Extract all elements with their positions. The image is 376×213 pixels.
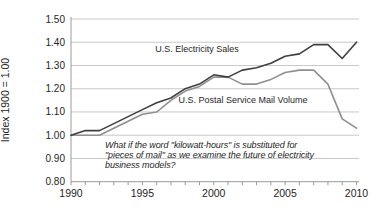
y-tick-label-1.20: 1.20 bbox=[46, 83, 66, 94]
electricity-vs-mail-line-chart: 1.501.401.301.201.101.000.900.8019901995… bbox=[0, 0, 376, 213]
y-tick-label-0.90: 0.90 bbox=[46, 153, 66, 164]
x-tick-label-2005: 2005 bbox=[273, 187, 297, 199]
y-tick-label-1.00: 1.00 bbox=[46, 130, 66, 141]
annotation-line-3: business models? bbox=[105, 160, 176, 170]
line-chart-container: 1.501.401.301.201.101.000.900.8019901995… bbox=[0, 0, 376, 213]
x-tick-label-1995: 1995 bbox=[131, 187, 155, 199]
y-tick-label-1.30: 1.30 bbox=[46, 60, 66, 71]
annotation-line-1: What if the word "kilowatt-hours" is sub… bbox=[105, 140, 298, 150]
x-tick-label-1990: 1990 bbox=[59, 187, 83, 199]
y-axis-title: Index 1900 = 1.00 bbox=[0, 58, 11, 143]
y-tick-label-1.50: 1.50 bbox=[46, 14, 66, 25]
annotation-line-2: "pieces of mail" as we examine the futur… bbox=[105, 150, 314, 160]
x-tick-label-2000: 2000 bbox=[202, 187, 226, 199]
mail-volume-label: U.S. Postal Service Mail Volume bbox=[178, 95, 307, 105]
x-tick-label-2010: 2010 bbox=[345, 187, 369, 199]
electricity-sales-label: U.S. Electricity Sales bbox=[155, 44, 239, 54]
y-tick-label-1.10: 1.10 bbox=[46, 106, 66, 117]
y-tick-label-1.40: 1.40 bbox=[46, 37, 66, 48]
